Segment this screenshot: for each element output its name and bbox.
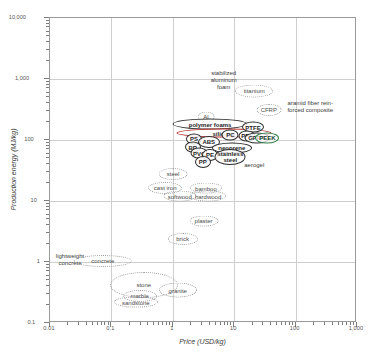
y-tick-minor — [46, 145, 49, 146]
x-tick-minor — [104, 322, 105, 325]
material-label: polymer foams — [189, 121, 232, 127]
y-tick-major — [44, 200, 49, 201]
y-tick-minor — [46, 60, 49, 61]
x-tick-minor — [346, 322, 347, 325]
y-tick-minor — [46, 304, 49, 305]
material-bubble: sandstone — [114, 297, 158, 308]
x-tick-minor — [101, 322, 102, 325]
y-tick-minor — [46, 224, 49, 225]
material-label: brick — [176, 236, 189, 242]
material-label: CFRP — [261, 107, 277, 113]
y-tick-major — [44, 17, 49, 18]
x-tick-minor — [158, 322, 159, 325]
material-bubble: plaster — [189, 215, 218, 226]
y-tick-minor — [46, 163, 49, 164]
x-axis-title: Price (USD/kg) — [49, 338, 356, 345]
x-tick-label: 1 — [170, 325, 173, 331]
y-tick-minor — [46, 49, 49, 50]
material-bubble: granite — [159, 283, 197, 298]
material-label: sandstone — [122, 299, 150, 305]
y-tick-minor — [46, 31, 49, 32]
material-label: PEEK — [259, 135, 275, 141]
y-tick-minor — [46, 293, 49, 294]
material-bubble: hardwood — [190, 191, 226, 202]
material-label: plaster — [195, 218, 213, 224]
y-tick-minor — [46, 142, 49, 143]
x-tick-label: 1,000 — [349, 325, 364, 331]
y-tick-minor — [46, 153, 49, 154]
y-tick-minor — [46, 96, 49, 97]
y-axis-title: Production energy (MJ/kg) — [10, 128, 17, 210]
plot-area — [49, 17, 356, 322]
y-tick-minor — [46, 285, 49, 286]
gridline-vertical — [296, 18, 297, 321]
x-tick-minor — [224, 322, 225, 325]
y-tick-minor — [46, 148, 49, 149]
material-label: stainless steel — [218, 151, 244, 163]
y-tick-minor — [46, 270, 49, 271]
y-tick-major — [44, 261, 49, 262]
x-tick-minor — [285, 322, 286, 325]
material-bubble: concrete — [74, 255, 132, 267]
x-tick-minor — [162, 322, 163, 325]
x-tick-label: 0.1 — [106, 325, 114, 331]
y-tick-minor — [46, 206, 49, 207]
x-tick-minor — [140, 322, 141, 325]
material-bubble: brick — [168, 233, 198, 245]
y-tick-minor — [46, 264, 49, 265]
x-tick-minor — [215, 322, 216, 325]
x-tick-minor — [338, 322, 339, 325]
material-label: aerogel — [244, 162, 264, 168]
y-tick-minor — [46, 23, 49, 24]
x-tick-minor — [78, 322, 79, 325]
y-tick-minor — [46, 182, 49, 183]
x-tick-minor — [281, 322, 282, 325]
material-label: PP — [199, 159, 207, 165]
y-tick-minor — [46, 81, 49, 82]
gridline-vertical — [111, 18, 112, 321]
x-tick-minor — [129, 322, 130, 325]
x-tick-minor — [147, 322, 148, 325]
x-tick-minor — [166, 322, 167, 325]
y-tick-major — [44, 78, 49, 79]
gridline-horizontal — [50, 79, 355, 80]
x-tick-minor — [220, 322, 221, 325]
x-tick-minor — [332, 322, 333, 325]
x-tick-label: 10 — [230, 325, 236, 331]
x-tick-minor — [227, 322, 228, 325]
material-label: softwood — [168, 193, 192, 199]
y-tick-minor — [46, 232, 49, 233]
x-tick-minor — [313, 322, 314, 325]
y-tick-major — [44, 322, 49, 323]
material-label: steel — [167, 171, 180, 177]
x-tick-minor — [324, 322, 325, 325]
gridline-vertical — [234, 18, 235, 321]
x-tick-minor — [86, 322, 87, 325]
material-label: granite — [169, 287, 187, 293]
x-tick-minor — [262, 322, 263, 325]
y-tick-minor — [46, 214, 49, 215]
material-bubble: PEEK — [255, 132, 279, 143]
x-tick-minor — [270, 322, 271, 325]
x-tick-minor — [342, 322, 343, 325]
material-label: stone — [136, 282, 151, 288]
y-tick-minor — [46, 218, 49, 219]
material-bubble: aramid fiber rein- forced composite — [278, 97, 342, 117]
x-tick-label: 0.01 — [43, 325, 54, 331]
y-tick-minor — [46, 267, 49, 268]
material-label: PC — [226, 132, 234, 138]
x-tick-minor — [190, 322, 191, 325]
y-tick-minor — [46, 275, 49, 276]
x-tick-minor — [67, 322, 68, 325]
y-tick-minor — [46, 41, 49, 42]
y-tick-minor — [46, 121, 49, 122]
material-bubble: aerogel — [241, 159, 267, 170]
y-tick-minor — [46, 92, 49, 93]
y-tick-minor — [46, 84, 49, 85]
x-tick-label: 100 — [290, 325, 300, 331]
x-tick-minor — [209, 322, 210, 325]
x-tick-minor — [97, 322, 98, 325]
y-tick-minor — [46, 203, 49, 204]
y-tick-minor — [46, 171, 49, 172]
y-tick-minor — [46, 110, 49, 111]
